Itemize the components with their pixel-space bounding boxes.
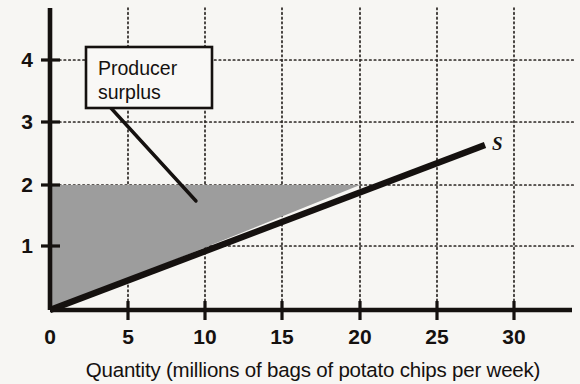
x-tick-label-20: 20 bbox=[348, 325, 371, 348]
x-tick-label-10: 10 bbox=[193, 325, 216, 348]
y-tick-label-4: 4 bbox=[21, 48, 33, 71]
y-tick-label-2: 2 bbox=[21, 173, 33, 196]
y-tick-label-1: 1 bbox=[21, 234, 33, 257]
supply-curve-label: S bbox=[492, 133, 503, 154]
callout-line-1: Producer bbox=[98, 57, 178, 79]
x-tick-label-5: 5 bbox=[122, 325, 134, 348]
x-axis-title: Quantity (millions of bags of potato chi… bbox=[86, 358, 541, 381]
y-tick-label-3: 3 bbox=[21, 110, 33, 133]
x-tick-label-0: 0 bbox=[44, 325, 56, 348]
callout-line-2: surplus bbox=[98, 81, 161, 103]
x-tick-label-25: 25 bbox=[425, 325, 449, 348]
x-tick-label-30: 30 bbox=[502, 325, 525, 348]
chart-canvas: S 1 2 3 4 0 5 10 15 20 25 bbox=[0, 0, 580, 384]
x-tick-label-15: 15 bbox=[270, 325, 294, 348]
producer-surplus-chart: S 1 2 3 4 0 5 10 15 20 25 bbox=[0, 0, 580, 384]
